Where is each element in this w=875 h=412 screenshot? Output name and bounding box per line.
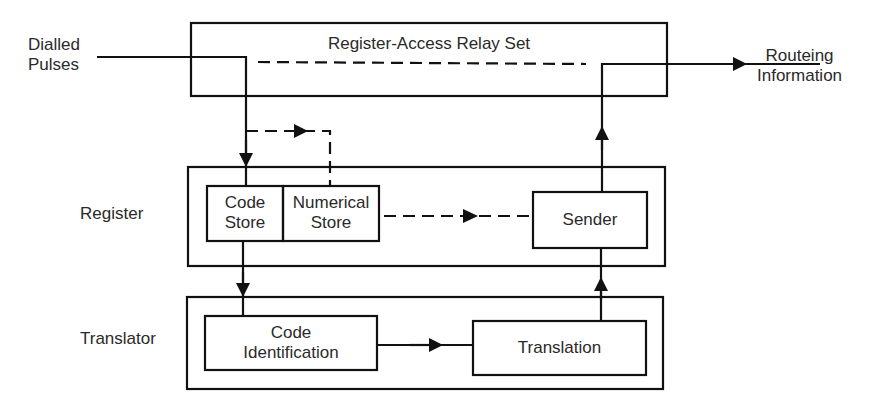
translator-label: Translator [80, 329, 156, 349]
arrowhead-numerical-to-sender [463, 209, 478, 223]
translator-label-text: Translator [80, 329, 156, 348]
translation-label-text: Translation [518, 338, 601, 357]
relay-set-title-text: Register-Access Relay Set [328, 34, 530, 53]
routeing-label-line1: Routeing [757, 46, 842, 66]
routeing-information-label: Routeing Information [757, 46, 842, 86]
numerical-store-line2: Store [283, 213, 379, 233]
dialled-label-line1: Dialled [28, 35, 80, 55]
register-label: Register [80, 204, 143, 224]
information-label-line2: Information [757, 66, 842, 86]
translation-label: Translation [473, 338, 646, 358]
arrowhead-numerical-branch [294, 124, 308, 138]
sender-label: Sender [533, 210, 647, 230]
register-label-text: Register [80, 204, 143, 223]
pulses-label-line2: Pulses [28, 55, 80, 75]
numerical-store-dashed-line [246, 131, 330, 186]
code-store-label: Code Store [207, 193, 283, 233]
numerical-store-line1: Numerical [283, 193, 379, 213]
code-identification-line2: Identification [205, 343, 377, 363]
code-identification-label: Code Identification [205, 323, 377, 363]
code-store-line1: Code [207, 193, 283, 213]
relay-dashed-line [258, 62, 586, 64]
sender-label-text: Sender [563, 210, 618, 229]
code-identification-line1: Code [205, 323, 377, 343]
relay-set-title: Register-Access Relay Set [191, 34, 667, 54]
code-store-line2: Store [207, 213, 283, 233]
numerical-store-label: Numerical Store [283, 193, 379, 233]
dialled-pulses-label: Dialled Pulses [28, 35, 80, 75]
